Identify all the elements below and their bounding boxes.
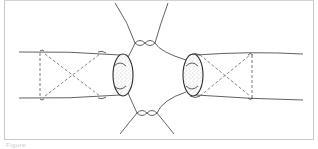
right-tube xyxy=(190,53,303,100)
knot-tube-diagram xyxy=(0,0,318,149)
left-tube xyxy=(19,50,120,100)
figure-caption: Figure xyxy=(6,141,26,149)
top-strands xyxy=(115,3,186,60)
right-ellipse xyxy=(183,54,203,96)
left-ellipse xyxy=(113,54,133,96)
bottom-strands xyxy=(120,92,186,134)
